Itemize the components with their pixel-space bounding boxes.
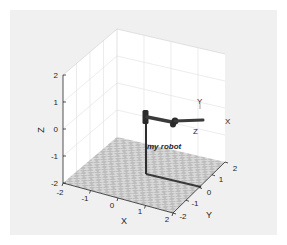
y-tick-label: -2 [179,212,187,221]
y-tick-label: 2 [233,164,238,173]
z-tick-label: 0 [54,125,59,134]
robot-name-label: my robot [147,142,182,151]
frame-y-label: Y [197,97,203,106]
z-tick-label: -2 [51,179,59,188]
y-axis-label: Y [206,210,212,220]
z-tick-label: -1 [51,152,59,161]
x-tick-label: 2 [165,215,170,224]
z-tick-label: 2 [54,71,59,80]
x-tick-label: -1 [81,194,89,203]
y-tick-label: -1 [191,199,199,208]
x-tick-label: 1 [138,207,143,216]
z-tick-label: 1 [54,98,59,107]
x-tick-label: -2 [56,188,64,197]
x-tick-label: 0 [110,201,115,210]
y-tick-label: 1 [219,175,224,184]
x-axis-label: X [121,216,127,226]
frame-x-label: X [225,117,231,126]
z-axis-label: Z [36,127,46,133]
robot-3d-plot[interactable]: 2 1 0 -1 -2 Z -2 -1 0 1 2 X -2 -1 0 1 2 … [0,0,287,245]
frame-z-label: Z [193,127,198,136]
robot-link-forearm [175,120,203,121]
y-tick-label: 0 [207,188,212,197]
